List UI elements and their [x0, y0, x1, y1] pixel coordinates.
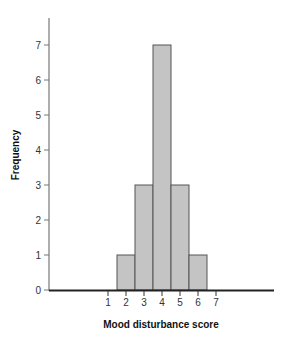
x-axis-title: Mood disturbance score — [103, 319, 219, 330]
x-ticks: 1234567 — [105, 291, 219, 308]
histogram-bar — [153, 45, 171, 290]
y-tick-label: 4 — [35, 145, 41, 156]
y-tick-label: 3 — [35, 180, 41, 191]
histogram-bar — [117, 255, 135, 290]
x-tick-label: 2 — [123, 297, 129, 308]
x-tick-label: 3 — [141, 297, 147, 308]
x-tick-label: 5 — [177, 297, 183, 308]
y-tick-label: 2 — [35, 215, 41, 226]
histogram-bar — [171, 185, 189, 290]
x-tick-label: 6 — [195, 297, 201, 308]
histogram-bar — [189, 255, 207, 290]
y-tick-label: 0 — [35, 285, 41, 296]
x-tick-label: 1 — [105, 297, 111, 308]
y-ticks: 01234567 — [35, 40, 49, 296]
histogram-chart: 01234567 1234567 Frequency Mood disturba… — [0, 0, 287, 341]
y-tick-label: 6 — [35, 75, 41, 86]
y-tick-label: 7 — [35, 40, 41, 51]
histogram-bar — [135, 185, 153, 290]
bars-group — [117, 45, 207, 290]
y-tick-label: 5 — [35, 110, 41, 121]
y-axis-title: Frequency — [10, 129, 21, 180]
x-tick-label: 4 — [159, 297, 165, 308]
y-tick-label: 1 — [35, 250, 41, 261]
x-tick-label: 7 — [213, 297, 219, 308]
